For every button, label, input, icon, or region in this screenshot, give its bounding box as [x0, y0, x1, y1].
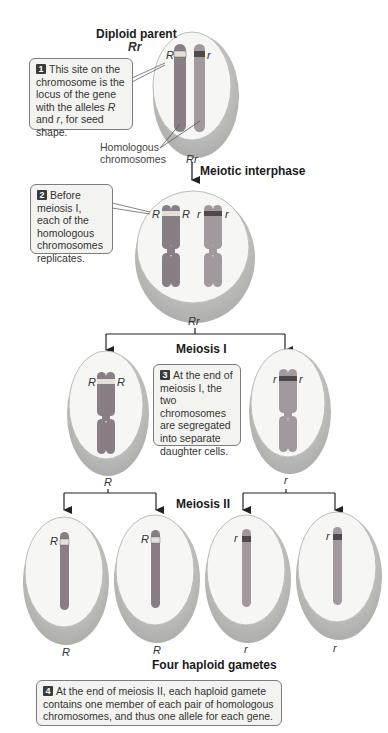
parent-title: Diploid parent — [96, 27, 177, 41]
step-badge: 3 — [160, 370, 170, 380]
allele-label: R — [88, 376, 96, 388]
allele-label: R — [117, 376, 125, 388]
gamete-label: r — [333, 642, 337, 654]
meiosis1-genotype-R: R — [104, 476, 112, 488]
allele-label: r — [225, 208, 229, 220]
step-badge: 1 — [36, 64, 46, 74]
homologous-label: Homologous chromosomes — [100, 141, 166, 165]
stage-label-meiosis1: Meiosis I — [176, 342, 227, 356]
gamete-4 — [296, 512, 382, 640]
step-badge: 2 — [37, 190, 47, 200]
allele-label: R — [50, 535, 58, 547]
meiosis1-genotype-r: r — [284, 474, 288, 486]
parent-cell — [132, 32, 239, 158]
note-1: 1This site on the chromosome is the locu… — [29, 58, 133, 130]
gamete-label: R — [153, 644, 161, 656]
allele-label: R — [141, 533, 149, 545]
parent-bottom-genotype: Rr — [186, 153, 198, 165]
allele-label: r — [299, 373, 303, 385]
meiosis1-cell-R — [67, 351, 149, 476]
gamete-label: r — [244, 643, 248, 655]
gamete-label: R — [62, 646, 70, 658]
gamete-2 — [114, 515, 200, 643]
parent-genotype: Rr — [128, 40, 141, 54]
interphase-genotype: Rr — [188, 315, 200, 327]
stage-label-gametes: Four haploid gametes — [152, 658, 277, 672]
meiosis1-cell-r — [249, 349, 331, 474]
stage-label-meiosis2: Meiosis II — [176, 497, 230, 511]
allele-label: r — [273, 373, 277, 385]
allele-label: R — [182, 208, 190, 220]
allele-label: R — [152, 208, 160, 220]
stage-label-interphase: Meiotic interphase — [200, 164, 305, 178]
note-2: 2Before meiosis I, each of the homologou… — [30, 184, 113, 254]
allele-label: R — [166, 49, 174, 61]
allele-label: r — [234, 532, 238, 544]
note-4: 4At the end of meiosis II, each haploid … — [36, 680, 282, 726]
gamete-3 — [205, 515, 291, 643]
allele-label: r — [326, 530, 330, 542]
allele-label: r — [207, 49, 211, 61]
note-3: 3At the end of meiosis I, the two chromo… — [153, 364, 241, 446]
step-badge: 4 — [43, 686, 53, 696]
gamete-1 — [23, 517, 109, 645]
allele-label: r — [197, 208, 201, 220]
